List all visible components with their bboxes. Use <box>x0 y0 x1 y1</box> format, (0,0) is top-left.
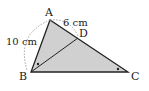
triangle-diagram: A B C D 10 cm 6 cm <box>0 0 149 91</box>
angle-mark-b <box>37 63 39 65</box>
label-b: B <box>19 70 27 83</box>
label-a: A <box>44 6 54 19</box>
label-c: C <box>131 70 139 83</box>
label-d: D <box>79 27 88 40</box>
length-ab: 10 cm <box>6 36 38 47</box>
length-ad: 6 cm <box>63 17 88 28</box>
angle-mark-c <box>117 68 119 70</box>
